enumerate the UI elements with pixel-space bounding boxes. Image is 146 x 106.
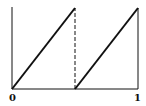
sawtooth-plot xyxy=(0,0,146,106)
x-tick-label-1: 1 xyxy=(134,93,141,103)
series-layer xyxy=(12,8,138,89)
x-tick-label-0: 0 xyxy=(9,93,16,103)
sawtooth-line xyxy=(75,8,138,89)
sawtooth-line xyxy=(12,8,75,89)
